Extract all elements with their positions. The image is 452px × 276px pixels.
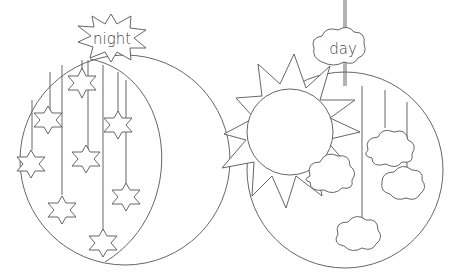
star-icon xyxy=(104,111,132,139)
night-badge: night xyxy=(78,14,146,62)
star-icon xyxy=(112,183,140,211)
day-badge: day xyxy=(313,27,365,65)
night-ornament: night xyxy=(17,14,230,265)
night-ornament-outer-circle xyxy=(20,55,230,265)
stars xyxy=(17,68,140,257)
star-icon xyxy=(48,196,76,224)
day-ornament: day xyxy=(222,0,443,268)
star-icon xyxy=(34,106,62,134)
star-icon xyxy=(68,68,96,98)
cloud-icon xyxy=(382,166,425,199)
cloud-icon xyxy=(366,130,415,166)
coloring-page: night day xyxy=(0,0,452,276)
night-label: night xyxy=(93,30,131,48)
cloud-icon xyxy=(336,216,381,250)
day-label: day xyxy=(329,40,357,58)
star-icon xyxy=(89,229,117,257)
star-icon xyxy=(72,145,100,173)
